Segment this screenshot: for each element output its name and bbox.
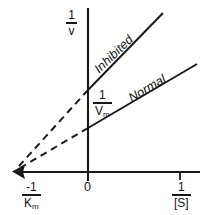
- y-axis-label: 1 v: [66, 6, 77, 37]
- x-intercept-label: -1 Km: [22, 178, 41, 209]
- lineweaver-burk-plot: 1 v 1 Vm -1 Km 0 1 [S] Inhibited Normal: [0, 0, 203, 215]
- inhibited-extrapolation-dashed: [19, 90, 88, 166]
- normal-extrapolation-dashed: [20, 128, 88, 168]
- origin-label: 0: [84, 181, 91, 194]
- x-intercept-denominator-subscript: m: [32, 202, 39, 211]
- x-axis-label-denominator: [S]: [172, 196, 191, 209]
- y-intercept-numerator: 1: [97, 89, 108, 102]
- y-axis-label-denominator: v: [67, 24, 77, 37]
- y-intercept-denominator-subscript: m: [103, 110, 110, 119]
- y-intercept-denominator: Vm: [93, 104, 112, 117]
- x-intercept-numerator: -1: [24, 181, 39, 194]
- x-axis-label: 1 [S]: [172, 178, 191, 209]
- x-axis-label-numerator: 1: [176, 181, 187, 194]
- y-intercept-label: 1 Vm: [93, 86, 112, 117]
- y-axis-label-numerator: 1: [66, 9, 77, 22]
- x-intercept-denominator: Km: [22, 196, 41, 209]
